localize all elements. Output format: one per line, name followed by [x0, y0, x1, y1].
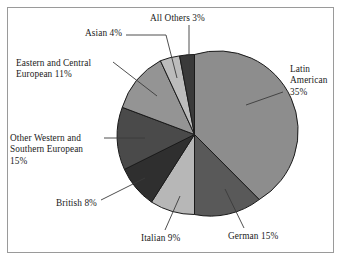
- chart-area: All Others 3% Asian 4% Eastern and Centr…: [0, 0, 343, 262]
- slice-label-all-others: All Others 3%: [150, 13, 205, 24]
- slice-label-eastern-central-european: Eastern and Central European 11%: [16, 58, 91, 81]
- slice-label-asian: Asian 4%: [85, 28, 122, 39]
- slice-label-latin-american: Latin American 35%: [290, 64, 327, 98]
- slice-label-other-western-southern-european: Other Western and Southern European 15%: [10, 133, 83, 167]
- slice-label-british: British 8%: [56, 198, 97, 209]
- slice-label-italian: Italian 9%: [141, 233, 180, 244]
- pie-slices: [117, 51, 298, 216]
- pie-chart-figure: All Others 3% Asian 4% Eastern and Centr…: [0, 0, 343, 262]
- pie-chart-svg: [0, 0, 343, 262]
- slice-label-german: German 15%: [228, 231, 278, 242]
